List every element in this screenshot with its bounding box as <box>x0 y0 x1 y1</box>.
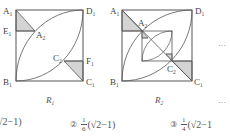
option-3-marker: ③ <box>170 120 177 129</box>
label-d1: D1 <box>195 6 205 17</box>
option-1: √2−1) <box>0 116 21 127</box>
label-c1: C1 <box>194 77 203 88</box>
label-a2: A2 <box>138 18 148 29</box>
label-c2: C2 <box>167 64 176 75</box>
shaded-triangle-bottom-right <box>64 61 83 81</box>
option-2-fraction: 1 6 <box>81 116 87 133</box>
option-1-expression: √2−1) <box>0 116 21 127</box>
option-2: ② 1 6 (√2−1) <box>70 116 115 133</box>
label-a1: A1 <box>110 6 120 17</box>
label-a2: A2 <box>36 30 46 41</box>
option-3-expression: (√2−1 <box>188 119 212 130</box>
diagonal-a1-c1 <box>122 10 192 81</box>
label-c2: C2 <box>53 53 62 64</box>
option-3: ③ 1 4 (√2−1 <box>170 116 212 133</box>
label-d1: D1 <box>86 6 96 17</box>
figure-r1: A1 D1 E1 A2 C2 F1 B1 C1 R1 <box>3 6 96 106</box>
option-2-marker: ② <box>70 120 77 129</box>
ellipsis-figure: … <box>218 39 226 48</box>
caption-r1: R1 <box>45 95 55 106</box>
label-b1: B1 <box>110 77 119 88</box>
shaded-triangle-inner-top-left <box>142 31 148 38</box>
label-e1: E1 <box>3 26 12 37</box>
label-f1: F1 <box>86 56 94 67</box>
figure-r2: A1 D1 A2 C2 B1 C1 R2 <box>110 6 205 106</box>
option-3-fraction: 1 4 <box>181 116 187 133</box>
label-b1: B1 <box>3 77 12 88</box>
label-a1: A1 <box>3 6 13 17</box>
shaded-triangle-top-left <box>16 10 35 31</box>
caption-r2: R2 <box>154 95 164 106</box>
ellipsis-caption: … <box>218 96 226 105</box>
label-c1: C1 <box>86 77 95 88</box>
option-2-expression: (√2−1) <box>88 119 116 130</box>
